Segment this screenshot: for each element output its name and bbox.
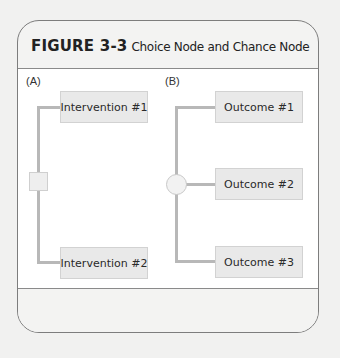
figure-number: FIGURE 3-3 [31,37,127,55]
branch-line-outcome-1 [175,106,216,109]
panel-a-label: (A) [26,75,41,87]
chance-node-circle [166,174,187,195]
branch-line-intervention-2 [37,261,61,264]
figure-card: FIGURE 3-3Choice Node and Chance Node (A… [17,20,319,333]
choice-node-square [29,172,48,191]
figure-footer [18,289,318,332]
figure-header: FIGURE 3-3Choice Node and Chance Node [18,21,318,69]
outcome-3-box: Outcome #3 [215,246,303,278]
diagram-area: (A) Intervention #1 Intervention #2 (B) … [18,69,318,289]
outcome-2-box: Outcome #2 [215,168,303,200]
figure-title: FIGURE 3-3Choice Node and Chance Node [31,36,309,55]
panel-b-label: (B) [165,75,180,87]
outcome-1-box: Outcome #1 [215,91,303,123]
intervention-1-box: Intervention #1 [60,91,148,123]
intervention-2-box: Intervention #2 [60,247,148,279]
figure-caption: Choice Node and Chance Node [131,40,309,54]
branch-line-intervention-1 [37,106,61,109]
branch-line-outcome-3 [175,260,216,263]
